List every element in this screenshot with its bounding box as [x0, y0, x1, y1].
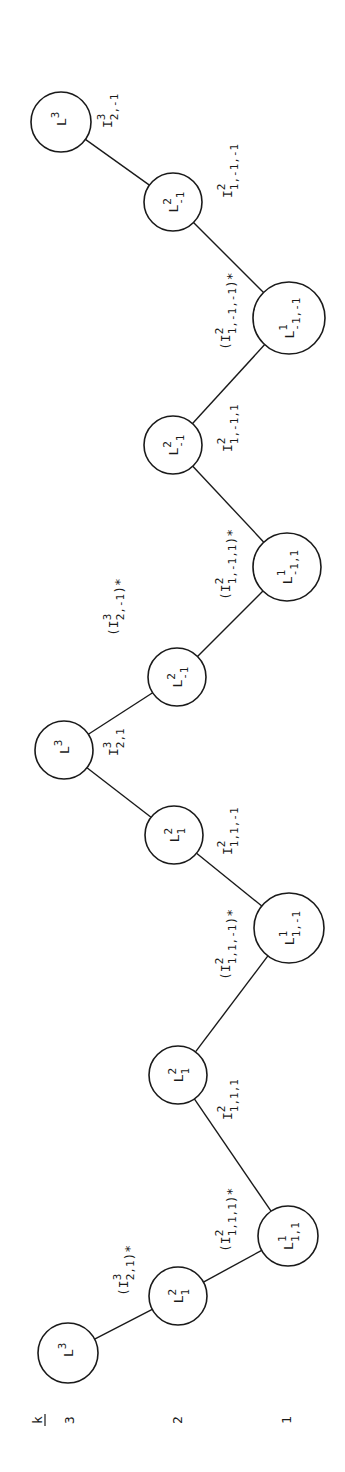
subscript: 1 [179, 1068, 192, 1075]
superscript: 2 [213, 958, 226, 965]
node-n9: L11,-1 [254, 893, 324, 963]
close-paren-star: )* [112, 578, 127, 594]
node-n6: L2-1 [148, 648, 206, 706]
edge-label-n10-n11: I21,1,1 [215, 1079, 241, 1120]
symbol-base: L [167, 834, 182, 842]
subscript: -1 [178, 666, 191, 679]
superscript: 2 [215, 184, 228, 191]
subscript: 2,1 [114, 728, 127, 748]
superscript: 1 [277, 931, 290, 938]
symbol-base: I [220, 1112, 235, 1120]
symbol-base: L [280, 576, 295, 584]
subscript: 1,-1,-1 [226, 288, 239, 334]
subscript: 1 [179, 1289, 192, 1296]
svg-text:(I32,1)*: (I32,1)* [111, 1245, 137, 1296]
subscript: -1 [174, 191, 187, 204]
symbol-base: L [57, 746, 72, 754]
superscript: 2 [165, 673, 178, 680]
close-paren-star: )* [122, 1245, 137, 1261]
symbol-base: I [220, 444, 235, 452]
superscript: 2 [166, 1068, 179, 1075]
open-paren: ( [218, 342, 233, 350]
symbol-base: I [220, 847, 235, 855]
subscript: 2,1 [124, 1260, 137, 1280]
superscript: 1 [275, 570, 288, 577]
node-n13: L3 [38, 1323, 98, 1383]
edge-label-n8-n9: I21,1,-1 [215, 807, 241, 855]
symbol-base: L [54, 118, 69, 126]
superscript: 1 [277, 324, 290, 331]
subscript: -1,1 [288, 550, 301, 577]
close-paren-star: )* [224, 529, 239, 545]
edge-label-n11-n12: (I21,1,1)* [213, 1188, 239, 1252]
superscript: 2 [161, 198, 174, 205]
superscript: 2 [213, 1230, 226, 1237]
subscript: 1,-1,-1 [228, 144, 241, 190]
subscript: 1 [175, 828, 188, 835]
edge-label-n9-n10: (I21,1,-1)* [213, 909, 239, 980]
subscript: -1 [174, 434, 187, 447]
subscript: 1,1,-1 [228, 807, 241, 847]
superscript: 2 [215, 438, 228, 445]
svg-text:I32,1: I32,1 [101, 728, 127, 756]
node-n7: L3 [35, 721, 93, 779]
svg-text:(I21,1,-1)*: (I21,1,-1)* [213, 909, 239, 980]
superscript: 3 [101, 742, 114, 749]
level-label-2: 2 [170, 1416, 185, 1424]
svg-text:(I21,1,1)*: (I21,1,1)* [213, 1188, 239, 1252]
open-paren: ( [116, 1288, 131, 1296]
edge-label-n3-n4: (I21,-1,-1)* [213, 272, 239, 350]
open-paren: ( [106, 628, 121, 636]
edge-label-n7-n8: I32,1 [101, 728, 127, 756]
node-n2: L2-1 [144, 173, 202, 231]
superscript: 3 [95, 114, 108, 121]
svg-text:k: k [30, 1416, 45, 1424]
svg-text:I21,1,-1: I21,1,-1 [215, 807, 241, 855]
node-n4: L2-1 [144, 416, 202, 474]
superscript: 3 [111, 1274, 124, 1281]
symbol-base: I [218, 1236, 233, 1244]
close-paren-star: )* [224, 1188, 239, 1204]
edge-n7-n8 [87, 768, 151, 818]
symbol-base: I [218, 964, 233, 972]
node-circle [253, 533, 321, 601]
superscript: 3 [49, 112, 62, 119]
open-paren: ( [218, 972, 233, 980]
svg-text:(I21,-1,-1)*: (I21,-1,-1)* [213, 272, 239, 350]
subscript: 2,-1 [108, 94, 121, 121]
subscript: 1,-1,1 [228, 404, 241, 444]
node-n12: L21 [149, 1267, 207, 1325]
node-n3: L1-1,-1 [253, 282, 325, 354]
symbol-base: I [106, 748, 121, 756]
symbol-base: I [106, 620, 121, 628]
lattice-diagram: L3L2-1L1-1,-1L2-1L1-1,1L2-1L3L21L11,-1L2… [0, 0, 345, 1472]
subscript: 1,1,1 [228, 1079, 241, 1112]
node-n8: L21 [145, 806, 203, 864]
symbol-base: I [220, 190, 235, 198]
edge-n11-n12 [203, 1250, 261, 1282]
superscript: 2 [215, 1106, 228, 1113]
superscript: 2 [161, 441, 174, 448]
edge-label-n4-n5: I21,-1,1 [215, 404, 241, 452]
svg-text:1: 1 [279, 1416, 294, 1424]
subscript: 1,-1 [290, 911, 303, 938]
edge-n12-n13 [95, 1309, 153, 1339]
node-n1: L3 [31, 92, 91, 152]
edge-label-n1-n2: I32,-1 [95, 94, 121, 128]
node-circle [254, 893, 324, 963]
node-circle [253, 282, 325, 354]
superscript: 3 [56, 1343, 69, 1350]
symbol-base: L [166, 448, 181, 456]
edge-n8-n9 [197, 853, 262, 906]
subscript: -1,-1 [290, 298, 303, 331]
svg-text:(I21,-1,1)*: (I21,-1,1)* [213, 529, 239, 600]
nodes-layer: L3L2-1L1-1,-1L2-1L1-1,1L2-1L3L21L11,-1L2… [31, 92, 325, 1383]
edge-n1-n2 [85, 139, 149, 185]
level-label-1: 1 [279, 1416, 294, 1424]
symbol-base: L [282, 331, 297, 339]
symbol-base: I [116, 1280, 131, 1288]
symbol-base: I [218, 584, 233, 592]
symbol-base: L [171, 1295, 186, 1303]
symbol-base: L [171, 1074, 186, 1082]
axis-title: k [30, 1416, 45, 1424]
